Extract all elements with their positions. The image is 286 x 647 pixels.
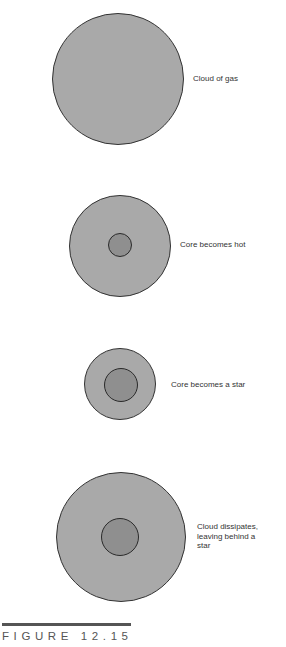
star-core-3	[104, 368, 138, 402]
gas-cloud-1	[52, 13, 184, 145]
hot-core-2	[108, 233, 132, 257]
label-core-becomes-hot: Core becomes hot	[180, 240, 245, 250]
label-core-becomes-a-star: Core becomes a star	[171, 380, 245, 390]
label-cloud-dissipates: Cloud dissipates, leaving behind a star	[197, 522, 258, 551]
figure-caption: FIGURE 12.15	[2, 630, 133, 642]
label-cloud-of-gas: Cloud of gas	[193, 74, 238, 84]
caption-rule	[2, 623, 131, 626]
star-formation-diagram: Cloud of gas Core becomes hot Core becom…	[0, 0, 286, 647]
star-core-4	[101, 518, 139, 556]
